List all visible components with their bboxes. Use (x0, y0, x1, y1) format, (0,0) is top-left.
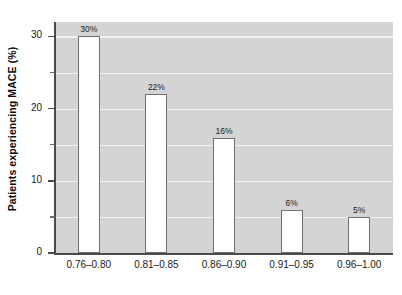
chart-figure: Patients experiencing MACE (%) 010203030… (0, 0, 402, 295)
y-axis-minor-tick (50, 216, 55, 218)
y-axis-minor-tick (50, 144, 55, 146)
y-axis-line (54, 22, 56, 254)
y-axis-tick (48, 108, 55, 110)
x-axis-tick-label: 0.96–1.00 (319, 259, 399, 270)
bar-value-label: 16% (194, 126, 254, 136)
plot-area (55, 22, 393, 253)
bar (78, 36, 100, 253)
y-axis-tick-label: 20 (2, 102, 42, 113)
bar (145, 94, 167, 253)
gridline (55, 36, 393, 38)
y-axis-tick (48, 252, 55, 254)
x-axis-line (54, 253, 393, 255)
y-axis-tick (48, 180, 55, 182)
bar-value-label: 6% (262, 198, 322, 208)
y-axis-tick-label: 0 (2, 246, 42, 257)
bar-value-label: 30% (59, 24, 119, 34)
gridline (55, 73, 393, 75)
bar (213, 138, 235, 254)
bar (348, 217, 370, 253)
y-axis-title-text: Patients experiencing MACE (%) (6, 47, 18, 212)
bar-value-label: 5% (329, 205, 389, 215)
y-axis-tick (48, 36, 55, 38)
gridline (55, 109, 393, 111)
y-axis-tick-label: 10 (2, 174, 42, 185)
bar-value-label: 22% (126, 82, 186, 92)
bar (281, 210, 303, 253)
y-axis-minor-tick (50, 72, 55, 74)
y-axis-tick-label: 30 (2, 29, 42, 40)
